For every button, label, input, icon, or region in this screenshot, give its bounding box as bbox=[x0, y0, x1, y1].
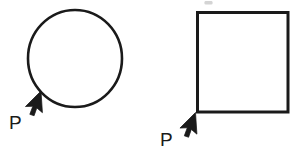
point-label-p-square: P bbox=[160, 130, 173, 149]
point-label-p-circle: P bbox=[9, 113, 22, 132]
circle-pointer-arrow-icon bbox=[24, 91, 53, 120]
figure-drawing bbox=[0, 0, 300, 157]
square-shape bbox=[198, 13, 289, 113]
figure-canvas: P P bbox=[0, 0, 300, 157]
circle-shape bbox=[28, 10, 122, 107]
square-pointer-arrow-icon bbox=[178, 113, 207, 142]
scan-smudge-artifact bbox=[205, 1, 213, 5]
